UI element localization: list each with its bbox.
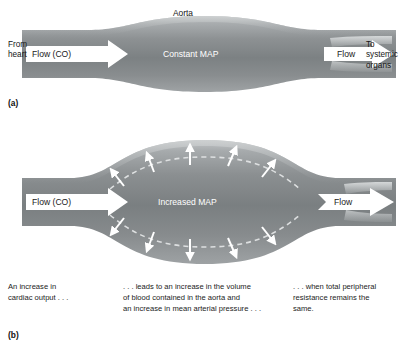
caption-column-right: . . . when total peripheral resistance r… xyxy=(293,281,408,315)
to-systemic-organs-label: To systemic organs xyxy=(366,40,398,71)
figure-aorta-map: Flow (CO) Flow Constant MAP Aorta From h… xyxy=(0,0,411,359)
panel-a-tag: (a) xyxy=(8,98,18,108)
caption-column-left: An increase in cardiac output . . . xyxy=(8,281,118,303)
caption-column-middle: . . . leads to an increase in the volume… xyxy=(123,281,288,315)
panel-b: Flow (CO) Flow Increased MAP xyxy=(0,130,411,275)
outflow-label-a: Flow xyxy=(337,49,356,59)
inflow-label-a: Flow (CO) xyxy=(32,49,71,59)
panel-b-illustration: Flow (CO) Flow Increased MAP xyxy=(0,130,411,275)
vessel-label-b: Increased MAP xyxy=(158,197,217,207)
from-heart-label: From heart xyxy=(8,40,27,61)
inflow-label-b: Flow (CO) xyxy=(32,197,71,207)
vessel-label-a: Constant MAP xyxy=(163,49,219,59)
panel-a-illustration: Flow (CO) Flow Constant MAP xyxy=(0,0,411,110)
panel-b-tag: (b) xyxy=(8,330,19,340)
panel-a: Flow (CO) Flow Constant MAP Aorta From h… xyxy=(0,0,411,110)
aorta-label: Aorta xyxy=(173,8,193,18)
outflow-label-b: Flow xyxy=(334,197,353,207)
